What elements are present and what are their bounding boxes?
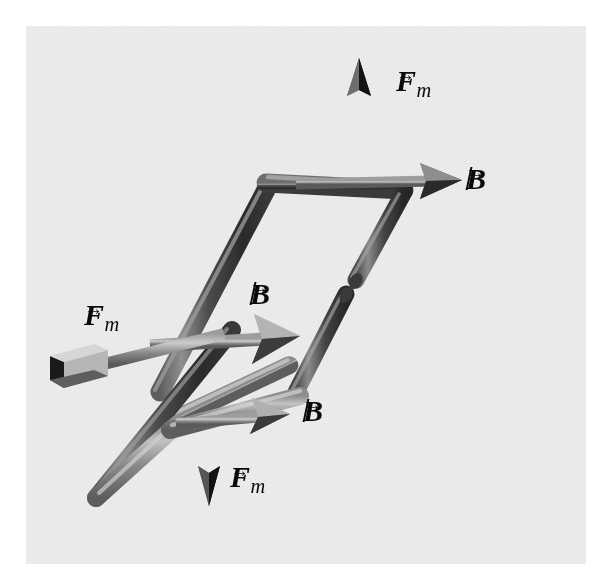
vector-arrow-accent: → [396, 66, 416, 85]
label-subscript: m [416, 79, 431, 101]
vector-arrow-accent: → [84, 300, 104, 319]
force-vector-up [347, 58, 371, 188]
vector-accent-group: → B [250, 279, 270, 309]
label-force-bottom: → F m [230, 462, 265, 492]
label-symbol: B [303, 396, 323, 426]
label-force-top: → F m [396, 66, 431, 96]
loop-wire-right-upper [352, 192, 404, 280]
vector-arrow-accent: → [230, 462, 250, 481]
label-symbol: B [250, 279, 270, 309]
vector-accent-group: → F [396, 66, 416, 96]
label-field-bottom-right: → B [303, 396, 323, 426]
label-force-left: → F m [84, 300, 119, 330]
label-subscript: m [104, 313, 119, 335]
vector-diagram [0, 0, 608, 576]
label-subscript: m [250, 475, 265, 497]
label-symbol: B [466, 164, 486, 194]
vector-accent-group: → B [466, 164, 486, 194]
loop-wire-right-lower [292, 294, 346, 392]
figure-canvas: → F m → B → B → F m → B → F m [0, 0, 608, 576]
vector-accent-group: → F [230, 462, 250, 492]
vector-accent-group: → F [84, 300, 104, 330]
vector-accent-group: → B [303, 396, 323, 426]
label-field-top-right: → B [466, 164, 486, 194]
label-field-middle: → B [250, 279, 270, 309]
